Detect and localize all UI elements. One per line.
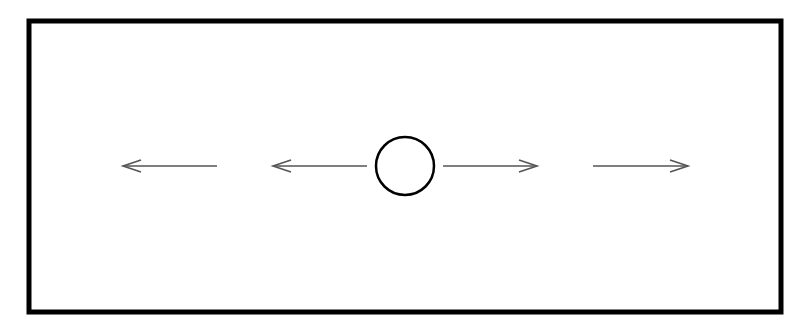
arrow-far-left-icon bbox=[123, 160, 217, 172]
center-circle bbox=[376, 137, 434, 195]
arrow-near-right-icon bbox=[443, 160, 537, 172]
arrow-far-right-icon bbox=[593, 160, 688, 172]
diagram-canvas bbox=[0, 0, 798, 329]
arrow-near-left-icon bbox=[273, 160, 367, 172]
